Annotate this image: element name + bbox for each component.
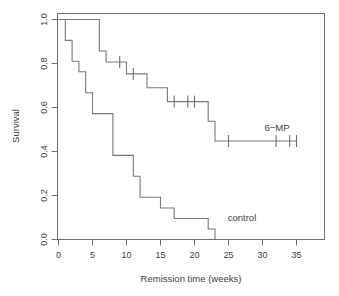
series-label-6mp: 6−MP xyxy=(264,122,289,133)
series-6mp: 6−MP xyxy=(59,20,297,148)
survival-plot-figure: 0 5 10 15 20 25 30 35 0.0 0.2 0.4 0.6 0.… xyxy=(0,0,339,296)
x-tick-label-25: 25 xyxy=(223,250,233,260)
kaplan-meier-chart: 0 5 10 15 20 25 30 35 0.0 0.2 0.4 0.6 0.… xyxy=(0,0,339,296)
x-tick-label-20: 20 xyxy=(189,250,199,260)
x-tick-label-10: 10 xyxy=(121,250,131,260)
y-tick-label-0.8: 0.8 xyxy=(39,57,49,70)
series-label-control: control xyxy=(228,212,257,223)
y-tick-label-0.6: 0.6 xyxy=(39,101,49,114)
x-axis-tick-labels: 0 5 10 15 20 25 30 35 xyxy=(56,250,302,260)
x-axis-title: Remission time (weeks) xyxy=(141,273,242,284)
y-axis-ticks xyxy=(52,20,58,240)
y-tick-label-0.4: 0.4 xyxy=(39,145,49,158)
y-tick-label-0.2: 0.2 xyxy=(39,189,49,202)
y-axis-tick-labels: 0.0 0.2 0.4 0.6 0.8 1.0 xyxy=(39,13,49,246)
series-control: control xyxy=(59,20,257,240)
x-tick-label-30: 30 xyxy=(257,250,267,260)
x-tick-label-5: 5 xyxy=(90,250,95,260)
curve-6mp xyxy=(59,20,297,142)
curve-control xyxy=(59,20,216,240)
x-axis-ticks xyxy=(59,240,297,246)
y-axis-title: Survival xyxy=(10,109,21,143)
y-tick-label-0.0: 0.0 xyxy=(39,233,49,246)
y-tick-label-1.0: 1.0 xyxy=(39,13,49,26)
x-tick-label-35: 35 xyxy=(291,250,301,260)
x-tick-label-0: 0 xyxy=(56,250,61,260)
x-tick-label-15: 15 xyxy=(155,250,165,260)
